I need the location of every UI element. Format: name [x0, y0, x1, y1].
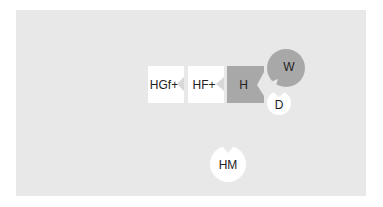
notch-icon: [265, 79, 278, 92]
connector-notches: [0, 0, 383, 207]
notch-icon: [272, 91, 286, 97]
notch-icon: [216, 77, 224, 91]
notch-icon: [222, 146, 234, 153]
notch-icon: [177, 77, 184, 91]
notch-icon: [257, 72, 264, 96]
